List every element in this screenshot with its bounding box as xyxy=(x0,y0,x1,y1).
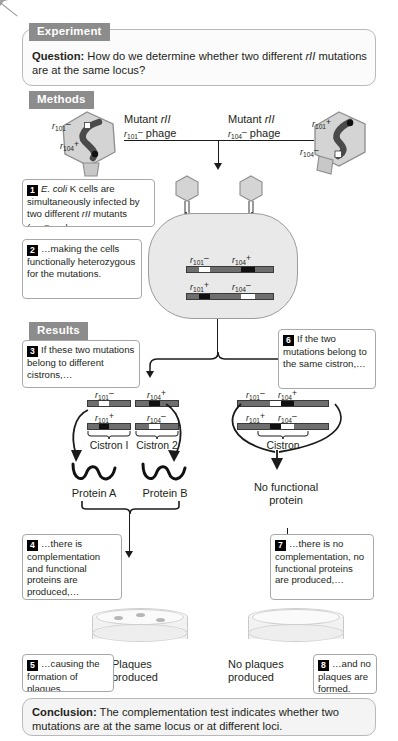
dna-segment-wildtype xyxy=(241,267,255,272)
right-phage-mutant-word: Mutant xyxy=(228,113,262,125)
step-number-8: 8 xyxy=(318,660,329,671)
callout-2-text: …making the cells functionally heterozyg… xyxy=(27,243,135,279)
cell-dna-bar-top xyxy=(186,266,274,273)
plaque-spot xyxy=(114,616,123,620)
dish-base xyxy=(248,624,344,642)
protein-a-shape xyxy=(70,462,118,484)
step-number-2: 2 xyxy=(27,245,38,256)
question-gene: rII xyxy=(305,50,315,62)
callout-step-7: 7…there is no complementation, no functi… xyxy=(270,534,374,600)
question-text: Question: How do we determine whether tw… xyxy=(32,49,368,77)
callout-step-6: 6If the two mutations belong to the same… xyxy=(278,329,376,389)
protein-b-label: Protein B xyxy=(133,487,197,499)
infecting-phage-left xyxy=(174,175,200,215)
step-number-1: 1 xyxy=(27,185,38,196)
no-plaques-line1: No plaques xyxy=(228,658,284,670)
plaques-produced-label: Plaques produced xyxy=(112,658,192,684)
callout-step-1: 1E. coli K cells are simultaneously infe… xyxy=(22,179,155,227)
left-phage-label: Mutant rII r101– phage xyxy=(124,112,220,141)
callout-step-2: 2…making the cells functionally heterozy… xyxy=(22,239,142,299)
step-number-7: 7 xyxy=(275,540,286,551)
plaque-spot xyxy=(136,613,145,617)
left-phage-gene: rII xyxy=(161,113,171,125)
dna-segment xyxy=(187,267,199,272)
conclusion-label: Conclusion: xyxy=(32,706,97,718)
protein-a-label: Protein A xyxy=(62,487,126,499)
left-phage-phage-word: phage xyxy=(143,127,177,139)
no-functional-protein-label: No functional protein xyxy=(232,481,340,507)
callout-3-leader xyxy=(0,2,18,16)
dish-inner-surface xyxy=(96,609,184,625)
complementation-test-figure: Experiment Question: How do we determine… xyxy=(0,0,398,741)
no-functional-protein-line1: No functional xyxy=(254,481,318,493)
phage-join-stem xyxy=(218,140,219,165)
cell-dna-bar-bottom xyxy=(186,293,274,300)
cropped-header-text xyxy=(60,2,64,11)
protein-b-shape xyxy=(140,462,188,484)
step-number-6: 6 xyxy=(283,335,294,346)
petri-dish-with-plaques xyxy=(92,608,188,652)
callout-step-5: 5…causing the formation of plaques. xyxy=(22,654,114,692)
callout-6-text: If the two mutations belong to the same … xyxy=(283,333,367,369)
step-number-5: 5 xyxy=(27,660,38,671)
right-phage-phage-word: phage xyxy=(247,127,281,139)
right-phage-allele-r104: r104– xyxy=(300,146,319,159)
left-phage-mutant-word: Mutant xyxy=(124,113,158,125)
plaques-line1: Plaques xyxy=(112,658,152,670)
callout-step-3: 3If these two mutations belong to differ… xyxy=(22,340,140,388)
conclusion-text: Conclusion: The complementation test ind… xyxy=(32,705,368,733)
results-split-branches xyxy=(148,352,292,374)
infecting-phage-right xyxy=(238,175,264,215)
step-number-3: 3 xyxy=(27,346,38,357)
left-phage-allele-r101: r101– xyxy=(52,120,71,133)
callout-7-text: …there is no complementation, no functio… xyxy=(275,538,364,585)
dna-segment xyxy=(210,294,241,299)
results-badge: Results xyxy=(29,322,88,340)
left-plate-stem xyxy=(129,514,130,554)
callout-step-4: 4…there is complementation and functiona… xyxy=(22,534,122,600)
question-part1: How do we determine whether two differen… xyxy=(84,50,305,62)
no-plaques-line2: produced xyxy=(228,671,274,683)
left-phage-allele-r104: r104+ xyxy=(60,140,79,153)
dna-segment xyxy=(210,267,241,272)
results-left-arrow xyxy=(146,371,154,378)
plaques-line2: produced xyxy=(112,671,158,683)
dna-segment xyxy=(255,294,273,299)
dish-inner-surface xyxy=(252,609,340,625)
left-plate-arrow xyxy=(125,551,133,558)
right-phage-allele-r101: r101+ xyxy=(312,118,331,131)
step-number-4: 4 xyxy=(27,540,38,551)
dna-segment-mutation xyxy=(241,294,255,299)
plaque-spot xyxy=(156,618,165,622)
phage-join-arrow xyxy=(214,163,222,170)
right-mutant-phage-illustration xyxy=(305,106,377,178)
right-phage-label: Mutant rII r104– phage xyxy=(228,112,314,141)
no-functional-protein-line2: protein xyxy=(269,494,303,506)
methods-badge: Methods xyxy=(29,91,94,109)
petri-dish-no-plaques xyxy=(248,608,344,652)
question-label: Question: xyxy=(32,50,84,62)
proteins-join-brace xyxy=(80,501,182,515)
no-plaques-produced-label: No plaques produced xyxy=(228,658,312,684)
dna-segment-wildtype xyxy=(199,294,210,299)
callout-step-8: 8…and no plaques are formed. xyxy=(313,654,377,694)
dish-base xyxy=(92,624,188,642)
dna-segment xyxy=(187,294,199,299)
dna-segment-mutation xyxy=(199,267,210,272)
experiment-badge: Experiment xyxy=(29,23,110,41)
callout-3-text: If these two mutations belong to differe… xyxy=(27,344,134,380)
callout-1-text: E. coli K cells are simultaneously infec… xyxy=(27,183,140,227)
right-converging-arrows xyxy=(215,396,345,474)
dna-segment xyxy=(255,267,273,272)
right-phage-gene: rII xyxy=(265,113,275,125)
